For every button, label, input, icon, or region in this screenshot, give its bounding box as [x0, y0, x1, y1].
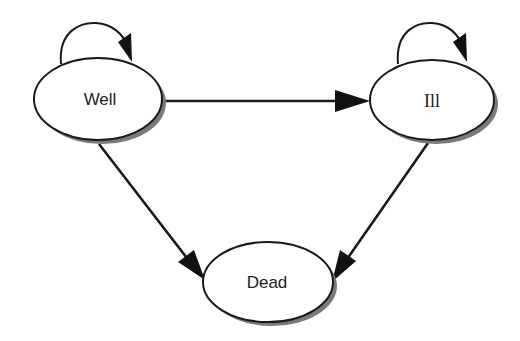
state-diagram: Well Ill Dead [0, 0, 520, 341]
arrowhead-icon [118, 33, 132, 62]
node-label-dead: Dead [247, 273, 288, 292]
edge-well-to-ill [162, 90, 370, 112]
arrowhead-icon [335, 90, 370, 112]
node-label-well: Well [84, 90, 117, 109]
node-ill: Ill [370, 60, 498, 144]
arrowhead-icon [453, 33, 467, 62]
edge-well-to-dead [99, 144, 205, 280]
edge-ill-to-dead [332, 143, 428, 282]
arrowhead-icon [178, 250, 205, 280]
node-label-ill: Ill [424, 91, 440, 111]
edge-ill-to-ill [398, 23, 467, 64]
arrowhead-icon [332, 250, 356, 282]
node-well: Well [34, 58, 166, 144]
node-dead: Dead [203, 242, 337, 326]
